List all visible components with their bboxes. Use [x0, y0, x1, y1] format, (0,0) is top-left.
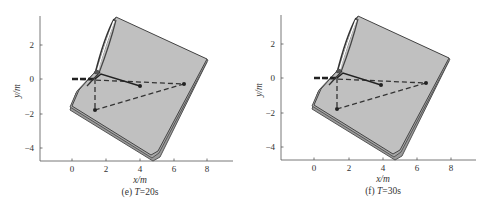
y-tick-label: 0	[30, 74, 35, 84]
x-tick-label: 0	[70, 164, 75, 174]
panel-caption: (e) T=20s	[122, 187, 159, 198]
panel-f-plot: 2 0 −2 −4 0 2 4 6 8 x/m y/m (f) T=30s	[254, 15, 476, 197]
data-point	[424, 81, 428, 85]
y-axis-label: y/m	[12, 84, 22, 99]
x-tick-label: 6	[415, 163, 420, 173]
structure-shape	[312, 16, 450, 160]
x-tick-label: 2	[347, 163, 352, 173]
y-tick-label: −2	[265, 108, 275, 118]
x-tick-label: 2	[104, 164, 109, 174]
x-tick-label: 4	[138, 164, 143, 174]
data-point	[379, 83, 383, 87]
data-point	[182, 82, 186, 86]
data-point	[95, 70, 99, 74]
y-tick-label: −2	[24, 109, 34, 119]
x-tick-label: 6	[172, 164, 177, 174]
x-tick-label: 8	[205, 164, 210, 174]
y-tick-label: 0	[271, 73, 276, 83]
caption-suffix: =20s	[140, 187, 159, 197]
panel-e-plot: 2 0 −2 −4 0 2 4 6 8 x/m y/m (e) T=20s	[12, 16, 233, 198]
x-tick-label: 8	[449, 163, 454, 173]
y-tick-label: 2	[30, 40, 35, 50]
data-point	[337, 69, 341, 73]
data-point	[335, 107, 339, 111]
x-axis-label: x/m	[132, 175, 147, 185]
y-tick-label: −4	[265, 142, 275, 152]
y-tick-label: −4	[24, 143, 34, 153]
x-tick-label: 4	[381, 163, 386, 173]
caption-prefix: (f)	[365, 186, 377, 197]
y-tick-label: 2	[271, 39, 276, 49]
data-point	[93, 108, 97, 112]
structure-shape	[70, 17, 208, 161]
panel-caption: (f) T=30s	[365, 186, 401, 197]
y-axis-label: y/m	[254, 83, 264, 98]
x-axis-label: x/m	[375, 174, 390, 184]
data-point	[138, 84, 142, 88]
caption-suffix: =30s	[382, 186, 401, 196]
x-tick-label: 0	[312, 163, 317, 173]
figure: 2 0 −2 −4 0 2 4 6 8 x/m y/m (e) T=20s	[0, 0, 486, 208]
caption-prefix: (e)	[122, 187, 135, 198]
